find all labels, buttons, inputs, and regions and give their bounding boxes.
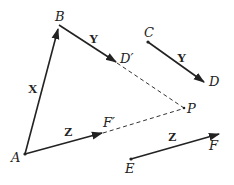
label-e: E (124, 161, 135, 176)
point-c-dot (146, 40, 149, 43)
label-d: D (208, 74, 220, 89)
dashed-line-dprime-p (117, 63, 184, 108)
vector-y-cd (148, 42, 204, 82)
label-p: P (186, 101, 196, 116)
label-vector-y-cd: Y (177, 50, 187, 65)
vector-y-bdprime (59, 25, 116, 62)
point-p-dot (183, 107, 186, 110)
label-vector-y-bd: Y (89, 31, 99, 46)
label-f: F (208, 138, 219, 153)
label-vector-z-af: Z (64, 124, 73, 139)
label-vector-z-ef: Z (168, 129, 177, 144)
label-b: B (54, 9, 65, 24)
label-f-prime: F′ (102, 115, 115, 130)
point-a-dot (23, 152, 26, 155)
label-a: A (10, 150, 20, 165)
label-c: C (144, 25, 154, 40)
label-d-prime: D′ (119, 51, 133, 66)
label-vector-x: X (28, 81, 38, 96)
vector-diagram: A B C D D′ P F′ E F X Y Y Z Z (0, 0, 234, 185)
